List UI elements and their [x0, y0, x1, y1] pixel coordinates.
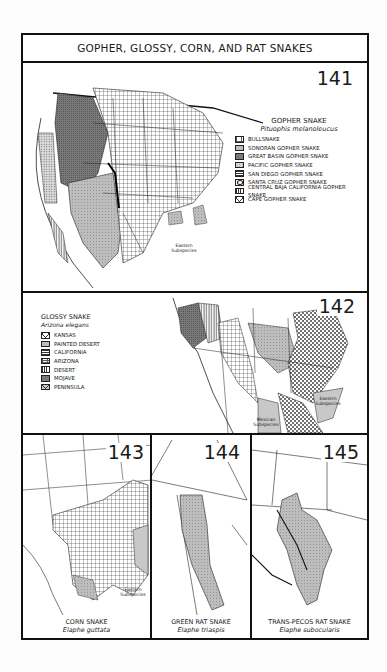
light-stipple-swatch-icon	[41, 341, 50, 348]
corn-snake-range-map	[23, 435, 152, 638]
map-number: 142	[317, 297, 357, 316]
map-page-frame: GOPHER, GLOSSY, CORN, AND RAT SNAKES	[21, 33, 369, 640]
dark-stipple-swatch-icon	[41, 375, 50, 382]
dark-stipple-swatch-icon	[235, 153, 244, 160]
map-141-gopher-snake: 141 GOPHER SNAKE Pituophis melanoleucus …	[23, 63, 367, 293]
species-scientific-name: Elaphe subocularis	[252, 626, 367, 634]
vertical-lines-swatch-icon	[235, 188, 244, 195]
map-number: 144	[202, 443, 242, 462]
legend-item: GREAT BASIN GOPHER SNAKE	[235, 152, 363, 161]
trans-pecos-rat-snake-range-map	[252, 435, 367, 638]
page-title: GOPHER, GLOSSY, CORN, AND RAT SNAKES	[23, 35, 367, 63]
map-caption: TRANS-PECOS RAT SNAKE Elaphe subocularis	[252, 618, 367, 634]
eastern-subspecies-label: Eastern Subspecies	[169, 243, 199, 253]
map-number: 141	[315, 69, 355, 88]
legend-item: KANSAS	[41, 331, 121, 340]
green-rat-snake-range-map	[152, 435, 252, 638]
legend-item: SONORAN GOPHER SNAKE	[235, 144, 363, 153]
oval-swatch-icon	[235, 179, 244, 186]
map-number: 143	[106, 443, 146, 462]
species-common-name: CORN SNAKE	[23, 618, 150, 626]
uncertain-range-marker: ?	[291, 368, 299, 373]
legend-item: PAINTED DESERT	[41, 340, 121, 349]
species-common-name: GREEN RAT SNAKE	[152, 618, 250, 626]
gopher-snake-legend: GOPHER SNAKE Pituophis melanoleucus BULL…	[235, 117, 363, 204]
legend-scientific-name: Arizona elegans	[41, 321, 121, 329]
species-scientific-name: Elaphe triaspis	[152, 626, 250, 634]
legend-item: BULLSNAKE	[235, 135, 363, 144]
glossy-snake-legend: GLOSSY SNAKE Arizona elegans KANSAS PAIN…	[41, 313, 121, 391]
horizontal-lines-swatch-icon	[41, 349, 50, 356]
legend-item: SAN DIEGO GOPHER SNAKE	[235, 169, 363, 178]
map-144-green-rat-snake: 144 GREEN RAT SNAKE Elaphe triaspis	[152, 435, 252, 638]
legend-item: PACIFIC GOPHER SNAKE	[235, 161, 363, 170]
legend-item: CENTRAL BAJA CALIFORNIA GOPHER SNAKE	[235, 187, 363, 196]
legend-item: PENINSULA	[41, 383, 121, 392]
legend-item: MOJAVE	[41, 374, 121, 383]
diamond-swatch-icon	[41, 332, 50, 339]
eastern-subspecies-label: Eastern Subspecies	[118, 587, 148, 597]
species-scientific-name: Elaphe guttata	[23, 626, 150, 634]
map-caption: GREEN RAT SNAKE Elaphe triaspis	[152, 618, 250, 634]
legend-item: DESERT	[41, 365, 121, 374]
diamond-swatch-icon	[41, 384, 50, 391]
species-common-name: TRANS-PECOS RAT SNAKE	[252, 618, 367, 626]
horizontal-lines-swatch-icon	[235, 170, 244, 177]
mexican-subspecies-label: Mexican Subspecies	[251, 417, 281, 427]
map-145-trans-pecos-rat-snake: 145 TRANS-PECOS RAT SNAKE Elaphe subocul…	[252, 435, 367, 638]
map-caption: CORN SNAKE Elaphe guttata	[23, 618, 150, 634]
legend-item: CALIFORNIA	[41, 348, 121, 357]
map-number: 145	[321, 443, 361, 462]
map-143-corn-snake: 143 Eastern Subspecies CORN SNAKE Elaphe…	[23, 435, 152, 638]
vertical-lines-swatch-icon	[41, 366, 50, 373]
dot-swatch-icon	[235, 162, 244, 169]
legend-title: GLOSSY SNAKE	[41, 313, 121, 321]
diamond-swatch-icon	[235, 196, 244, 203]
eastern-subspecies-label: Eastern Subspecies	[313, 396, 343, 406]
crosshatch-swatch-icon	[235, 136, 244, 143]
light-stipple-swatch-icon	[235, 145, 244, 152]
legend-scientific-name: Pituophis melanoleucus	[235, 125, 363, 133]
legend-item: ARIZONA	[41, 357, 121, 366]
map-142-glossy-snake: 142 GLOSSY SNAKE Arizona elegans KANSAS …	[23, 293, 367, 435]
legend-title: GOPHER SNAKE	[235, 117, 363, 125]
crosshatch-swatch-icon	[41, 358, 50, 365]
